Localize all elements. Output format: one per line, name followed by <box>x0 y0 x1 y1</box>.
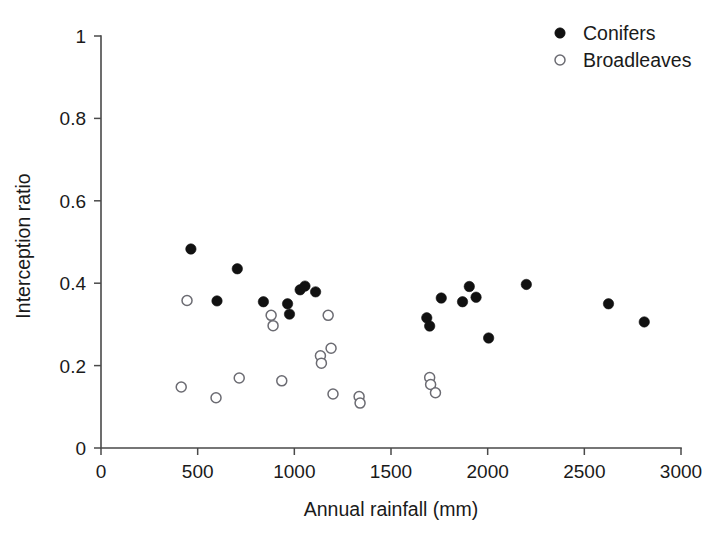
y-axis-title: Interception ratio <box>12 173 34 318</box>
data-point-broadleaves-1 <box>176 382 186 392</box>
legend-label-conifers: Conifers <box>583 22 656 44</box>
x-tick-label-1500: 1500 <box>370 461 412 482</box>
y-tick-label-0.2: 0.2 <box>60 356 86 377</box>
data-point-conifers-16 <box>521 279 531 289</box>
legend-label-broadleaves: Broadleaves <box>583 49 692 71</box>
data-point-broadleaves-13 <box>355 398 365 408</box>
scatter-chart-figure: 05001000150020002500300000.20.40.60.81 C… <box>0 0 726 546</box>
x-tick-label-2000: 2000 <box>467 461 509 482</box>
axis-spines <box>101 36 681 448</box>
data-point-broadleaves-9 <box>316 358 326 368</box>
data-point-broadleaves-5 <box>268 321 278 331</box>
data-point-conifers-5 <box>284 309 294 319</box>
y-tick-label-0.8: 0.8 <box>60 108 86 129</box>
data-point-conifers-18 <box>639 317 649 327</box>
series-conifers <box>186 244 650 343</box>
data-point-conifers-4 <box>282 299 292 309</box>
data-point-broadleaves-11 <box>328 389 338 399</box>
data-points <box>176 244 649 408</box>
series-broadleaves <box>176 296 440 409</box>
data-point-broadleaves-6 <box>277 376 287 386</box>
y-tick-label-1: 1 <box>75 26 86 47</box>
data-point-conifers-0 <box>186 244 196 254</box>
x-tick-label-0: 0 <box>96 461 107 482</box>
data-point-conifers-15 <box>483 333 493 343</box>
data-point-broadleaves-3 <box>234 373 244 383</box>
x-axis-title: Annual rainfall (mm) <box>304 498 478 520</box>
data-point-conifers-17 <box>603 299 613 309</box>
y-tick-label-0.4: 0.4 <box>60 273 87 294</box>
data-point-conifers-14 <box>471 292 481 302</box>
data-point-broadleaves-2 <box>211 393 221 403</box>
data-point-conifers-7 <box>300 281 310 291</box>
data-point-conifers-12 <box>457 297 467 307</box>
chart-canvas: 05001000150020002500300000.20.40.60.81 C… <box>0 0 726 546</box>
data-point-broadleaves-10 <box>326 343 336 353</box>
data-point-broadleaves-7 <box>323 310 333 320</box>
x-tick-label-500: 500 <box>182 461 214 482</box>
x-tick-label-3000: 3000 <box>660 461 702 482</box>
legend-marker-conifers <box>555 28 565 38</box>
data-point-conifers-8 <box>310 287 320 297</box>
tick-labels: 05001000150020002500300000.20.40.60.81 <box>60 26 703 482</box>
data-point-broadleaves-0 <box>182 296 192 306</box>
data-point-conifers-13 <box>464 281 474 291</box>
legend: ConifersBroadleaves <box>555 22 692 71</box>
y-tick-label-0.6: 0.6 <box>60 191 86 212</box>
data-point-conifers-10 <box>424 321 434 331</box>
data-point-conifers-2 <box>232 264 242 274</box>
x-tick-label-2500: 2500 <box>563 461 605 482</box>
legend-marker-broadleaves <box>555 55 565 65</box>
y-tick-label-0: 0 <box>75 438 86 459</box>
data-point-conifers-11 <box>436 293 446 303</box>
data-point-conifers-1 <box>212 296 222 306</box>
data-point-conifers-3 <box>258 297 268 307</box>
axes <box>101 36 681 448</box>
x-tick-label-1000: 1000 <box>273 461 315 482</box>
data-point-broadleaves-16 <box>430 388 440 398</box>
data-point-broadleaves-4 <box>266 310 276 320</box>
